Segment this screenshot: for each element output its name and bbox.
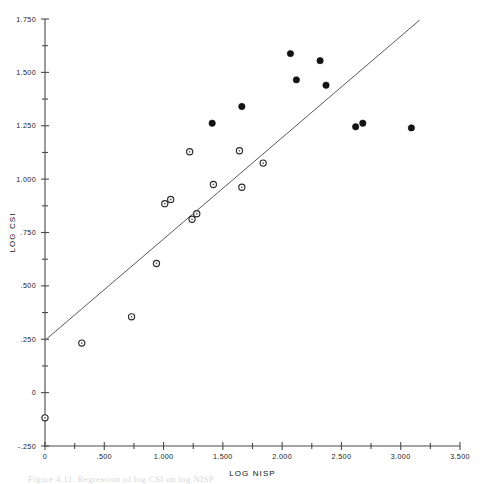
y-tick-label: .750 xyxy=(21,228,36,237)
data-point-filled xyxy=(360,120,366,126)
data-point-open-center xyxy=(189,151,191,153)
regression-line xyxy=(45,20,420,340)
x-tick-label: .500 xyxy=(97,452,112,461)
data-point-open-center xyxy=(213,184,215,186)
data-point-open-center xyxy=(191,218,193,220)
data-point-filled xyxy=(317,57,323,63)
data-point-open-center xyxy=(196,213,198,215)
y-tick-label: -.250 xyxy=(18,442,36,451)
data-point-open-center xyxy=(81,342,83,344)
y-tick-label: 1.250 xyxy=(16,121,36,130)
data-point-open-center xyxy=(156,263,158,265)
x-tick-label: 2.500 xyxy=(332,452,352,461)
data-point-filled xyxy=(293,77,299,83)
data-point-filled xyxy=(287,50,293,56)
y-axis-title: LOG CSI xyxy=(8,212,17,252)
x-axis-title: LOG NISP xyxy=(229,469,276,478)
data-point-filled xyxy=(323,82,329,88)
x-tick-label: 3.500 xyxy=(450,452,470,461)
data-point-open-center xyxy=(239,150,241,152)
y-tick-label: .250 xyxy=(21,335,36,344)
data-point-filled xyxy=(408,125,414,131)
data-point-filled xyxy=(239,103,245,109)
y-tick-label: .500 xyxy=(21,281,36,290)
x-tick-label: 2.000 xyxy=(272,452,292,461)
x-tick-label: 0 xyxy=(43,452,47,461)
y-tick-label: 1.500 xyxy=(16,68,36,77)
data-point-open-center xyxy=(131,316,133,318)
data-point-filled xyxy=(209,120,215,126)
figure-caption: Figure 4.11. Regression of log CSI on lo… xyxy=(28,474,214,484)
data-point-filled xyxy=(352,124,358,130)
data-point-open-center xyxy=(44,417,46,419)
data-point-open-center xyxy=(241,186,243,188)
y-tick-label: 0 xyxy=(32,388,36,397)
x-tick-label: 3.000 xyxy=(391,452,411,461)
data-point-open-center xyxy=(170,199,172,201)
x-tick-label: 1.000 xyxy=(154,452,174,461)
data-point-open-center xyxy=(262,162,264,164)
x-tick-label: 1.500 xyxy=(213,452,233,461)
data-point-open-center xyxy=(164,203,166,205)
y-tick-label: 1.000 xyxy=(16,175,36,184)
y-tick-label: 1.750 xyxy=(16,15,36,24)
